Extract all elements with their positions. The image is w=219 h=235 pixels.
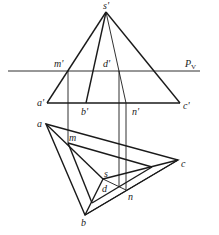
projection-diagram: s' m' d' PV a' b' n' c' a m c s d n b <box>0 0 219 235</box>
labels: s' m' d' PV a' b' n' c' a m c s d n b <box>37 0 196 228</box>
section-line-m-top <box>68 143 152 167</box>
section-line-m-b-top <box>68 143 92 203</box>
projection-lines <box>68 71 126 190</box>
label-m: m <box>69 132 76 143</box>
label-b-prime: b' <box>81 106 89 117</box>
label-n: n <box>128 191 133 202</box>
label-a-prime: a' <box>37 97 45 108</box>
label-d-prime: d' <box>103 58 111 69</box>
label-b: b <box>81 217 86 228</box>
label-c: c <box>181 158 186 169</box>
edge-s-c-top <box>103 160 178 179</box>
label-s: s <box>104 168 108 179</box>
label-a: a <box>37 118 42 129</box>
base-triangle-top <box>46 124 178 215</box>
label-pv: PV <box>184 58 196 71</box>
label-d: d <box>102 183 108 194</box>
top-view <box>46 124 178 215</box>
label-n-prime: n' <box>132 106 140 117</box>
label-m-prime: m' <box>54 58 64 69</box>
section-line-inner-top <box>92 167 152 203</box>
edge-s-c-front <box>106 12 180 103</box>
label-s-prime: s' <box>103 0 110 11</box>
label-c-prime: c' <box>183 100 190 111</box>
